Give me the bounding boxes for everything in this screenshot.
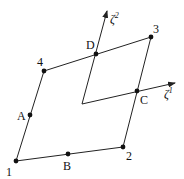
midpoint-label-B: B	[63, 159, 71, 173]
midpoint-label-A: A	[17, 109, 26, 123]
midpoint-label-C: C	[140, 93, 148, 107]
midpoint-B	[66, 152, 71, 157]
midpoint-C	[135, 89, 140, 94]
node-label-3: 3	[153, 22, 159, 36]
node-4	[42, 69, 47, 74]
zeta1-axis	[82, 83, 175, 104]
node-2	[121, 145, 126, 150]
node-label-2: 2	[126, 149, 132, 163]
node-1	[14, 159, 19, 164]
midpoint-D	[94, 52, 99, 57]
node-label-1: 1	[6, 165, 12, 179]
midpoint-A	[28, 113, 33, 118]
zeta1-label: ζ1	[164, 86, 173, 101]
midpoint-label-D: D	[86, 38, 95, 52]
node-label-4: 4	[37, 55, 43, 69]
isoparametric-element-diagram: 1234ABCD ζ1 ζ2	[0, 0, 184, 179]
zeta2-label: ζ2	[110, 11, 119, 26]
